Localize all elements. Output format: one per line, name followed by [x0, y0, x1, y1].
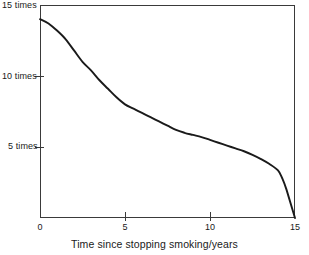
x-tick-label-5: 5: [115, 223, 135, 232]
x-axis-title: Time since stopping smoking/years: [0, 238, 309, 250]
x-tick-label-15: 15: [285, 223, 305, 232]
plot-area: [40, 5, 295, 218]
x-tick-label-10: 10: [200, 223, 220, 232]
chart-figure: 15 times 10 times 5 times 0 5 10 15 Time…: [0, 0, 309, 255]
x-tick-label-0: 0: [30, 223, 50, 232]
